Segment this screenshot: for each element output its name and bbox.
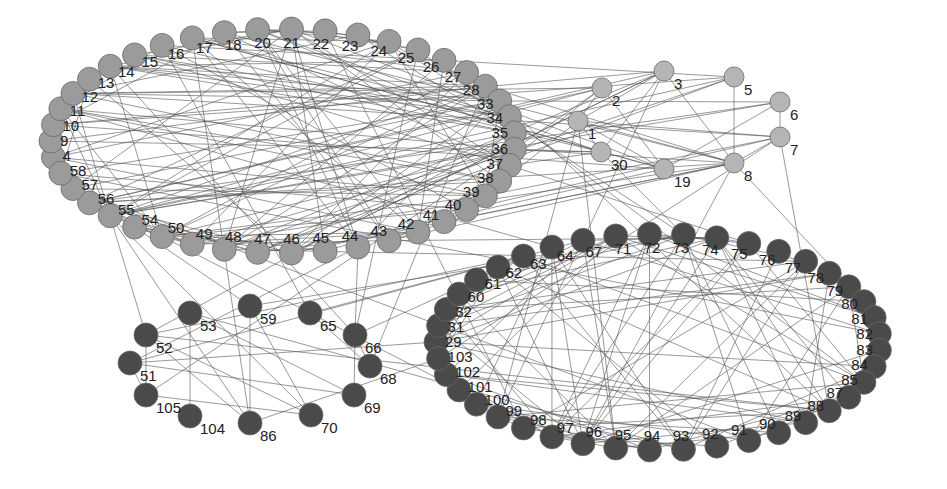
node-label: 89 (785, 407, 802, 424)
node-label: 67 (585, 243, 602, 260)
network-graph: 1234567891011121314151617181920212223242… (0, 0, 947, 489)
node-label: 91 (731, 421, 748, 438)
node-label: 66 (365, 339, 382, 356)
node-label: 104 (200, 420, 225, 437)
graph-node-68[interactable] (358, 354, 382, 378)
node-label: 31 (448, 318, 465, 335)
node-label: 94 (644, 427, 661, 444)
node-label: 13 (98, 74, 115, 91)
node-label: 97 (557, 419, 574, 436)
node-label: 48 (225, 228, 242, 245)
node-label: 24 (370, 42, 387, 59)
graph-node-52[interactable] (134, 323, 158, 347)
node-label: 74 (702, 241, 719, 258)
node-label: 86 (260, 427, 277, 444)
node-label: 3 (674, 75, 682, 92)
node-label: 6 (790, 106, 798, 123)
graph-node-69[interactable] (342, 383, 366, 407)
node-label: 103 (448, 348, 473, 365)
node-label: 71 (615, 240, 632, 257)
node-label: 18 (225, 36, 242, 53)
node-label: 85 (841, 371, 858, 388)
node-label: 52 (156, 339, 173, 356)
graph-node-86[interactable] (238, 411, 262, 435)
node-label: 20 (254, 34, 271, 51)
node-label: 9 (60, 132, 68, 149)
node-label: 60 (468, 288, 485, 305)
node-label: 82 (856, 325, 873, 342)
node-label: 45 (312, 229, 329, 246)
edge (552, 234, 650, 437)
node-label: 19 (674, 173, 691, 190)
graph-node-19[interactable] (654, 159, 674, 179)
node-label: 51 (140, 367, 157, 384)
node-label: 55 (118, 201, 135, 218)
node-label: 61 (485, 275, 502, 292)
node-label: 76 (759, 251, 776, 268)
node-label: 96 (585, 423, 602, 440)
graph-node-3[interactable] (654, 61, 674, 81)
node-label: 72 (644, 239, 661, 256)
graph-node-105[interactable] (134, 383, 158, 407)
node-label: 40 (445, 196, 462, 213)
node-label: 95 (615, 426, 632, 443)
node-label: 5 (744, 81, 752, 98)
node-label: 7 (790, 141, 798, 158)
node-label: 30 (611, 156, 628, 173)
node-label: 75 (731, 245, 748, 262)
graph-node-8[interactable] (724, 153, 744, 173)
node-label: 92 (702, 425, 719, 442)
graph-node-51[interactable] (118, 351, 142, 375)
node-label: 17 (196, 39, 213, 56)
graph-node-2[interactable] (592, 78, 612, 98)
node-label: 42 (398, 215, 415, 232)
node-label: 87 (826, 384, 843, 401)
node-label: 88 (807, 397, 824, 414)
node-label: 56 (98, 190, 115, 207)
node-label: 27 (445, 68, 462, 85)
node-label: 70 (321, 419, 338, 436)
edge (683, 235, 748, 441)
edge (73, 101, 500, 189)
node-label: 90 (759, 415, 776, 432)
graph-node-70[interactable] (299, 403, 323, 427)
node-label: 73 (673, 239, 690, 256)
edge (436, 342, 874, 367)
edge (583, 240, 616, 448)
node-label: 25 (398, 49, 415, 66)
node-label: 58 (70, 162, 87, 179)
graph-node-30[interactable] (591, 142, 611, 162)
node-label: 16 (168, 45, 185, 62)
graph-node-1[interactable] (568, 111, 588, 131)
node-label: 53 (200, 317, 217, 334)
node-label: 14 (118, 63, 135, 80)
node-label: 8 (744, 167, 752, 184)
graph-node-53[interactable] (178, 301, 202, 325)
node-label: 62 (506, 264, 523, 281)
graph-node-104[interactable] (178, 404, 202, 428)
node-label: 43 (370, 222, 387, 239)
graph-node-5[interactable] (724, 67, 744, 87)
node-label: 44 (342, 227, 359, 244)
graph-node-59[interactable] (238, 294, 262, 318)
edge (552, 235, 684, 437)
node-label: 15 (141, 53, 158, 70)
node-label: 21 (283, 34, 300, 51)
node-label: 65 (320, 317, 337, 334)
node-label: 64 (557, 247, 574, 264)
node-label: 1 (588, 125, 596, 142)
node-label: 49 (196, 225, 213, 242)
graph-node-7[interactable] (770, 127, 790, 147)
node-label: 77 (785, 259, 802, 276)
node-label: 105 (156, 399, 181, 416)
node-label: 39 (463, 183, 480, 200)
graph-node-65[interactable] (298, 301, 322, 325)
graph-node-6[interactable] (770, 92, 790, 112)
node-label: 68 (380, 370, 397, 387)
node-label: 93 (673, 427, 690, 444)
node-label: 23 (342, 37, 359, 54)
node-label: 50 (168, 219, 185, 236)
graph-node-66[interactable] (343, 323, 367, 347)
node-label: 46 (283, 230, 300, 247)
node-label: 69 (364, 399, 381, 416)
